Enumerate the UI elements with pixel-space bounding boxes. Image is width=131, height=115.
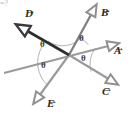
vector-canvas: [0, 0, 131, 115]
vector-line-B: [69, 6, 96, 56]
vector-label-D-text: D: [25, 7, 33, 19]
vector-label-E-text: E: [47, 97, 54, 109]
angle-label-theta-D-E: θ: [41, 61, 46, 70]
vector-label-C-text: C: [102, 85, 109, 97]
angle-label-theta-B-A: θ: [79, 34, 84, 43]
vector-label-A-text: A: [114, 44, 121, 56]
vector-label-B-text: B: [101, 6, 108, 18]
vector-label-C: → C: [102, 86, 109, 97]
vector-lines: [4, 6, 118, 104]
vector-line-E: [34, 55, 69, 103]
vector-label-B: → B: [101, 7, 108, 18]
vector-diagram-figure: =? → A → B: [0, 0, 131, 115]
vector-label-E: → E: [47, 98, 54, 109]
vector-label-D: → D: [25, 8, 33, 19]
angle-label-theta-D-B: θ: [40, 40, 45, 49]
vector-line-A: [4, 44, 118, 74]
vector-label-A: → A: [114, 45, 121, 56]
vector-line-C: [69, 55, 117, 84]
angle-label-theta-A-C: θ: [81, 54, 86, 63]
